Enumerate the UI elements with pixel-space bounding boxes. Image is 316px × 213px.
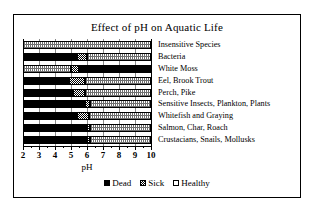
- bar-segment-sick: [77, 112, 88, 120]
- x-axis-tick-label: 9: [133, 150, 138, 160]
- category-label: Crustacians, Snails, Mollusks: [158, 135, 255, 144]
- category-label: Eel, Brook Trout: [158, 76, 213, 85]
- x-axis-tick-label: 8: [117, 150, 122, 160]
- x-axis-minor-tick: [127, 146, 128, 148]
- legend-label: Healthy: [181, 178, 210, 188]
- bar-segment-dead: [23, 136, 87, 144]
- category-label: Whitefish and Graying: [158, 111, 233, 120]
- x-axis-minor-tick: [95, 146, 96, 148]
- gridline: [151, 39, 152, 146]
- x-axis-line: [23, 146, 151, 147]
- legend-item-healthy: Healthy: [173, 178, 210, 188]
- x-axis-minor-tick: [111, 146, 112, 148]
- bar-row: [23, 112, 151, 120]
- x-axis-tick-label: 6: [85, 150, 90, 160]
- x-axis-title: pH: [23, 162, 151, 172]
- legend-swatch-dead-icon: [104, 180, 110, 186]
- bar-segment-healthy: [23, 41, 151, 49]
- x-axis-minor-tick: [63, 146, 64, 148]
- bar-segment-sick: [77, 53, 87, 61]
- category-label: Sensitive Insects, Plankton, Plants: [158, 99, 270, 108]
- bar-segment-dead: [23, 112, 77, 120]
- legend-item-dead: Dead: [104, 178, 131, 188]
- bar-segment-dead: [79, 65, 151, 73]
- chart-title: Effect of pH on Aquatic Life: [14, 21, 300, 33]
- bar-segment-healthy: [90, 124, 151, 132]
- bar-row: [23, 100, 151, 108]
- bar-segment-sick: [73, 89, 86, 97]
- legend-swatch-healthy-icon: [173, 180, 179, 186]
- bar-row: [23, 53, 151, 61]
- bar-segment-dead: [23, 100, 85, 108]
- bar-segment-sick: [69, 77, 85, 85]
- legend-item-sick: Sick: [140, 178, 164, 188]
- bar-segment-healthy: [87, 53, 151, 61]
- legend-label: Dead: [112, 178, 131, 188]
- bar-row: [23, 65, 151, 73]
- category-label: Salmon, Char, Roach: [158, 123, 228, 132]
- bar-segment-dead: [23, 89, 73, 97]
- bar-row: [23, 41, 151, 49]
- bar-segment-healthy: [85, 77, 151, 85]
- category-label: Bacteria: [158, 52, 185, 61]
- x-axis-tick-labels: 2345678910: [23, 150, 151, 162]
- x-axis-tick-label: 2: [21, 150, 26, 160]
- bar-row: [23, 89, 151, 97]
- bar-segment-healthy: [23, 65, 71, 73]
- bar-segment-dead: [23, 124, 87, 132]
- bar-segment-sick: [71, 65, 79, 73]
- bar-segment-healthy: [85, 89, 151, 97]
- category-label: Perch, Pike: [158, 88, 195, 97]
- bar-row: [23, 124, 151, 132]
- bar-segment-dead: [23, 77, 69, 85]
- bar-segment-dead: [23, 53, 77, 61]
- x-axis-tick-label: 3: [37, 150, 42, 160]
- bar-segment-healthy: [90, 136, 151, 144]
- bar-row: [23, 77, 151, 85]
- bar-segment-healthy: [90, 100, 151, 108]
- x-axis-tick-label: 5: [69, 150, 74, 160]
- x-axis-minor-tick: [143, 146, 144, 148]
- category-labels: Insensitive SpeciesBacteriaWhite MossEel…: [158, 39, 300, 149]
- x-axis-minor-tick: [79, 146, 80, 148]
- legend-label: Sick: [148, 178, 164, 188]
- chart-legend: DeadSickHealthy: [14, 178, 300, 188]
- category-label: Insensitive Species: [158, 40, 221, 49]
- x-axis-minor-tick: [31, 146, 32, 148]
- x-axis-tick-label: 4: [53, 150, 58, 160]
- x-axis-minor-tick: [47, 146, 48, 148]
- x-axis-tick-label: 10: [147, 150, 156, 160]
- bar-segment-healthy: [89, 112, 151, 120]
- bar-row: [23, 136, 151, 144]
- category-label: White Moss: [158, 64, 198, 73]
- plot-area: [23, 39, 151, 146]
- bar-series: [23, 39, 151, 146]
- chart-frame: Effect of pH on Aquatic Life 2345678910 …: [13, 14, 301, 198]
- x-axis-tick-label: 7: [101, 150, 106, 160]
- legend-swatch-sick-icon: [140, 180, 146, 186]
